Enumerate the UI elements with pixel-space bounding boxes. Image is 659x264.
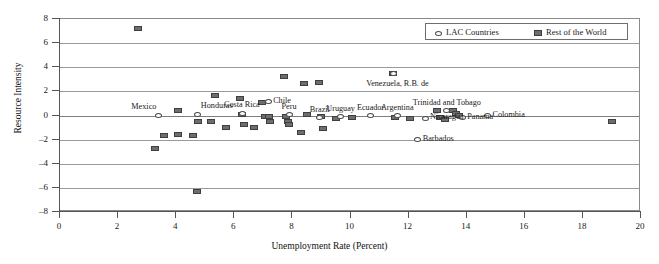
- x-tick-label: 4: [160, 221, 190, 231]
- x-tick-mark: [117, 211, 118, 218]
- data-point-row: [240, 122, 248, 127]
- data-point-row: [348, 115, 356, 120]
- y-tick-mark: [52, 211, 59, 212]
- y-tick-label: –8: [8, 207, 48, 216]
- x-tick-mark: [466, 211, 467, 218]
- data-point-row: [250, 125, 258, 130]
- data-point-lac: [194, 112, 201, 117]
- legend-item-lac: LAC Countries: [435, 27, 499, 38]
- x-tick-mark: [291, 211, 292, 218]
- data-point-label: Argentina: [381, 104, 414, 113]
- gridline: [60, 140, 639, 141]
- x-tick-mark: [524, 211, 525, 218]
- data-point-row: [189, 133, 197, 138]
- data-point-label: Nicaragua: [430, 113, 464, 122]
- x-tick-mark: [175, 211, 176, 218]
- x-tick-mark: [59, 211, 60, 218]
- legend-label-row: Rest of the World: [546, 27, 607, 37]
- x-tick-label: 2: [102, 221, 132, 231]
- data-point-lac: [239, 111, 246, 116]
- y-tick-mark: [52, 18, 59, 19]
- data-point-label: Barbados: [423, 135, 454, 144]
- data-point-row: [174, 132, 182, 137]
- data-point-row: [134, 26, 142, 31]
- data-point-row: [266, 119, 274, 124]
- data-point-row: [315, 80, 323, 85]
- resource-intensity-scatter-chart: 86420–2–4–6–8 02468101214161820 MexicoHo…: [0, 0, 659, 264]
- x-tick-label: 16: [509, 221, 539, 231]
- data-point-row: [222, 125, 230, 130]
- gridline: [60, 67, 639, 68]
- y-axis-title: Resource Intensity: [13, 0, 23, 198]
- y-tick-mark: [52, 90, 59, 91]
- data-point-label: Peru: [282, 103, 297, 112]
- legend-item-row: Rest of the World: [534, 27, 607, 38]
- data-point-row: [194, 119, 202, 124]
- open-ellipse-marker-icon: [435, 31, 442, 36]
- y-tick-mark: [52, 163, 59, 164]
- data-point-row: [193, 189, 201, 194]
- x-axis-title: Unemployment Rate (Percent): [0, 241, 659, 251]
- data-point-row: [151, 146, 159, 151]
- data-point-row: [319, 126, 327, 131]
- y-tick-mark: [52, 66, 59, 67]
- y-tick-mark: [52, 187, 59, 188]
- data-point-label: Colombia: [492, 111, 524, 120]
- data-point-row: [207, 119, 215, 124]
- y-axis-line: [59, 18, 60, 211]
- legend-label-lac: LAC Countries: [446, 27, 499, 37]
- gridline: [60, 164, 639, 165]
- data-point-lac: [286, 112, 293, 117]
- data-point-lac: [155, 113, 162, 118]
- data-point-row: [160, 133, 168, 138]
- y-tick-mark: [52, 115, 59, 116]
- x-tick-label: 18: [567, 221, 597, 231]
- x-tick-label: 20: [625, 221, 655, 231]
- x-tick-mark: [640, 211, 641, 218]
- x-tick-label: 12: [393, 221, 423, 231]
- data-point-row: [280, 74, 288, 79]
- y-tick-mark: [52, 139, 59, 140]
- y-tick-mark: [52, 42, 59, 43]
- x-tick-label: 0: [44, 221, 74, 231]
- gridline: [60, 91, 639, 92]
- gridline: [60, 43, 639, 44]
- gridline: [60, 188, 639, 189]
- data-point-label: Trinidad and Tobago: [413, 99, 481, 108]
- filled-square-marker-icon: [534, 30, 542, 36]
- chart-legend: LAC Countries Rest of the World: [425, 23, 628, 40]
- data-point-row: [174, 108, 182, 113]
- data-point-lac: [422, 116, 429, 121]
- data-point-row: [211, 93, 219, 98]
- data-point-row: [297, 130, 305, 135]
- x-tick-mark: [350, 211, 351, 218]
- data-point-label: Uruguay: [326, 105, 355, 114]
- x-tick-label: 10: [335, 221, 365, 231]
- data-point-row: [300, 81, 308, 86]
- x-tick-mark: [408, 211, 409, 218]
- data-point-row: [285, 122, 293, 127]
- x-tick-label: 8: [276, 221, 306, 231]
- x-tick-label: 6: [218, 221, 248, 231]
- x-tick-label: 14: [451, 221, 481, 231]
- data-point-row: [608, 119, 616, 124]
- data-point-label: Venezuela, R.B. de: [366, 80, 429, 89]
- data-point-label: Panama: [467, 113, 493, 122]
- x-tick-mark: [582, 211, 583, 218]
- x-tick-mark: [233, 211, 234, 218]
- data-point-label: Mexico: [131, 103, 156, 112]
- data-point-row: [406, 116, 414, 121]
- data-point-label: Costa Rica: [224, 101, 260, 110]
